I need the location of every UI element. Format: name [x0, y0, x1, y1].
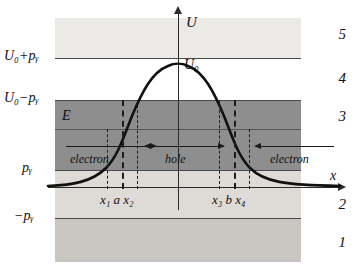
region-number-3: 3: [339, 108, 347, 125]
region-number-2: 2: [339, 196, 347, 213]
turning-point-line-b: [234, 100, 236, 189]
carrier-label-electron-right: electron: [270, 152, 309, 167]
hole-arrow-line: [146, 146, 224, 147]
electron-arrow-right-head-icon: [254, 143, 261, 149]
tick-labels-right: x₃ b x₄: [212, 192, 246, 208]
electron-arrow-right-line: [256, 146, 334, 147]
level-label-energy: E: [62, 108, 71, 124]
level-label-u0-minus-py: U₀−pᵧ: [4, 90, 39, 106]
peak-label-u0: U₀: [184, 57, 199, 73]
region-number-5: 5: [339, 26, 347, 43]
potential-curve: [0, 0, 358, 275]
electron-arrow-left-line: [66, 146, 156, 147]
y-axis-label: U: [186, 14, 197, 31]
carrier-label-electron-left: electron: [70, 152, 109, 167]
region-number-1: 1: [339, 234, 347, 251]
turning-point-line-x2: [137, 100, 138, 189]
turning-point-line-a: [122, 100, 124, 189]
level-label-minus-py: −pᵧ: [14, 208, 34, 224]
potential-barrier-figure: U U₀ U₀+pᵧ U₀−pᵧ E pᵧ −pᵧ x 5 4 3 2 1 x₁…: [0, 0, 358, 275]
turning-point-line-x4: [249, 129, 250, 189]
carrier-label-hole: hole: [165, 152, 186, 167]
region-number-4: 4: [339, 70, 347, 87]
level-label-u0-plus-py: U₀+pᵧ: [4, 48, 39, 64]
level-label-py: pᵧ: [22, 160, 32, 176]
hole-arrow-head-right-icon: [218, 143, 225, 149]
hole-arrow-head-left-icon: [144, 143, 151, 149]
x-axis-label: x: [330, 168, 336, 184]
tick-labels-left: x₁ a x₂: [100, 192, 134, 208]
